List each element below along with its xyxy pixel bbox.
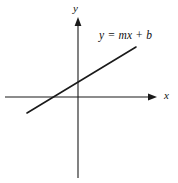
coordinate-plane-svg [0, 0, 178, 183]
x-axis-label: x [164, 90, 169, 101]
y-axis-arrowhead [75, 17, 82, 26]
equation-annotation: y = mx + b [99, 30, 152, 42]
linear-function-line [27, 47, 136, 113]
x-axis-group [5, 94, 157, 101]
x-axis-arrowhead [148, 94, 157, 101]
line-graph-figure: y x y = mx + b [0, 0, 178, 183]
y-axis-label: y [73, 3, 78, 14]
